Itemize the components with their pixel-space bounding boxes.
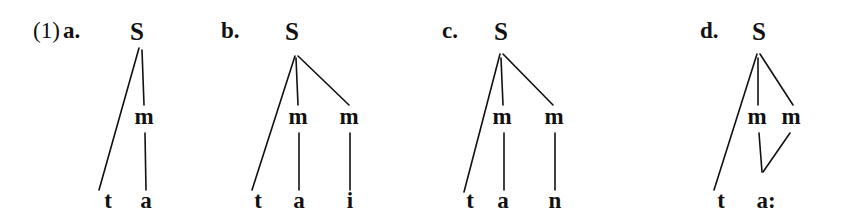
mora-node: m: [781, 104, 800, 129]
syllable-node: S: [285, 18, 299, 45]
terminal-node: t: [717, 188, 725, 213]
branch-line: [501, 58, 503, 105]
terminal-node: a: [140, 188, 152, 213]
tree-label-d: d.: [700, 18, 719, 43]
terminal-node: a:: [756, 188, 775, 213]
tree-diagram-canvas: (1)a.Smtab.Smmtaic.Smmtand.Smmta:: [0, 0, 849, 223]
branch-line: [142, 50, 144, 105]
terminal-node: t: [104, 188, 112, 213]
terminal-node: t: [254, 188, 262, 213]
tree-group-c: c.Smmtan: [442, 18, 564, 213]
terminal-node: t: [466, 188, 474, 213]
tree-label-a: a.: [63, 18, 80, 43]
mora-node: m: [134, 104, 153, 129]
tree-label-b: b.: [221, 18, 240, 43]
syllable-node: S: [752, 18, 766, 45]
example-number: (1): [33, 18, 60, 43]
terminal-node: n: [549, 188, 562, 213]
tree-label-c: c.: [442, 18, 458, 43]
mora-node: m: [544, 104, 563, 129]
branch-line: [296, 58, 298, 105]
terminal-node: i: [347, 188, 354, 213]
syllable-node: S: [494, 18, 508, 45]
tree-group-d: d.Smmta:: [700, 18, 801, 213]
tree-group-a: a.Smta: [63, 18, 154, 213]
branch-line: [763, 133, 790, 172]
tree-group-b: b.Smmtai: [221, 18, 359, 213]
branch-line: [759, 133, 762, 172]
mora-node: m: [288, 104, 307, 129]
terminal-node: a: [497, 188, 509, 213]
mora-node: m: [339, 104, 358, 129]
terminal-node: a: [293, 188, 305, 213]
syllable-node: S: [130, 18, 144, 45]
phonology-tree-figure: (1)a.Smtab.Smmtaic.Smmtand.Smmta:: [0, 0, 849, 223]
branch-line: [99, 48, 139, 190]
branch-line: [145, 133, 146, 190]
mora-node: m: [492, 104, 511, 129]
branch-line: [503, 54, 553, 105]
branch-line: [298, 56, 349, 105]
mora-node: m: [747, 104, 766, 129]
branch-line: [760, 54, 793, 105]
